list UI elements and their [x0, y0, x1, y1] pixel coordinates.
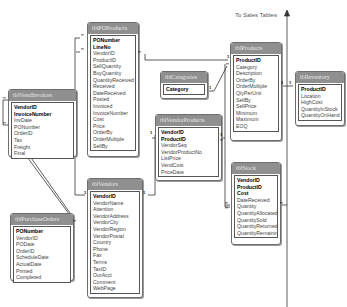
field: ActualDate: [14, 261, 70, 268]
table-tblVendors[interactable]: tblVendors VendorID VendorName Attention…: [87, 178, 143, 298]
cardinality-many: ∞: [225, 206, 228, 210]
field: Final: [12, 150, 73, 157]
field: Received: [91, 83, 135, 90]
table-title: tblVendors: [88, 179, 142, 190]
field: Category: [234, 64, 278, 71]
field: VendorPostal: [91, 233, 139, 240]
table-title: tblPOProducts: [88, 23, 138, 34]
field: Printed: [14, 268, 70, 275]
field-pk: Cost: [235, 190, 277, 197]
table-tblInventory[interactable]: tblInventory ProductID Location HighCost…: [295, 71, 345, 126]
field: VendorName: [91, 200, 139, 207]
field: VendorID: [91, 50, 135, 57]
field: SellBy: [91, 143, 135, 150]
field: VendorID: [14, 235, 70, 242]
field-pk: ProductID: [234, 57, 278, 64]
table-tblPurchaseOrders[interactable]: tblPurchaseOrders PONumber VendorID PODa…: [10, 213, 74, 281]
field: SellBy: [234, 97, 278, 104]
field-pk: LineNo: [91, 44, 135, 51]
field: Invoiced: [91, 103, 135, 110]
field: VendCost: [159, 162, 218, 169]
field: Country: [91, 239, 139, 246]
field: BuyQuantity: [91, 70, 135, 77]
table-tblProducts[interactable]: tblProducts ProductID Category Descripti…: [230, 42, 282, 141]
field: DateReceived: [91, 90, 135, 97]
cardinality-many: ∞: [81, 33, 84, 37]
cardinality-many: ∞: [73, 219, 76, 223]
cardinality-one: 1: [289, 81, 291, 85]
field: Fax: [91, 252, 139, 259]
cardinality-one: 1: [84, 191, 86, 195]
table-title: tblVendorProducts: [156, 115, 221, 126]
table-title: tblProducts: [231, 43, 281, 54]
field-list: PONumber VendorID PODate OrderID Schedul…: [13, 226, 71, 283]
field: InvDate: [12, 117, 73, 124]
field-list: PONumber LineNo VendorID ProductID SellQ…: [90, 35, 136, 151]
field: OrderID: [12, 130, 73, 137]
field: PONumber: [12, 124, 73, 131]
cardinality-one: 1: [227, 55, 229, 59]
field-pk: VendorID: [159, 129, 218, 136]
cardinality-many: ∞: [3, 96, 6, 100]
field: Posted: [91, 96, 135, 103]
cardinality-many: ∞: [280, 201, 283, 205]
field: QuantityReturned: [235, 223, 277, 230]
field: OrderMultiple: [91, 136, 135, 143]
table-title: tblStock: [232, 163, 280, 174]
field: HighCost: [299, 99, 341, 106]
table-title: tblPurchaseOrders: [11, 214, 73, 225]
field: Maximum: [234, 116, 278, 123]
field: QuantityAllocated: [235, 210, 277, 217]
field-list: Category: [163, 84, 205, 95]
field: QuantityOnHand: [299, 112, 341, 119]
cardinality-one: 1: [150, 131, 152, 135]
table-title: tblInventory: [296, 72, 344, 83]
field-pk: ProductID: [299, 86, 341, 93]
field: Price: [91, 123, 135, 130]
cardinality-many: ∞: [3, 121, 6, 125]
field: WebPage: [91, 285, 139, 292]
field: QuantityReceived: [91, 77, 135, 84]
field: PriceDate: [159, 169, 218, 176]
field: Location: [299, 93, 341, 100]
table-tblVendInvoices[interactable]: tblVendInvoices VendorID InvoiceNumber I…: [8, 89, 77, 157]
field: Phone: [91, 246, 139, 253]
field: OrderID: [14, 248, 70, 255]
table-tblCategories[interactable]: tblCategories Category: [160, 71, 208, 99]
cardinality-one: 1: [209, 86, 211, 90]
field: Cost: [91, 116, 135, 123]
field-list: VendorID InvoiceNumber InvDate PONumber …: [11, 102, 74, 159]
field: Terms: [91, 259, 139, 266]
field-pk: VendorID: [235, 177, 277, 184]
field: EOQ: [234, 123, 278, 130]
cardinality-many: ∞: [226, 62, 229, 66]
field: OrderBy: [234, 77, 278, 84]
field: Quantity: [235, 203, 277, 210]
field: VendorProductNo: [159, 149, 218, 156]
table-tblStock[interactable]: tblStock VendorID ProductID Cost DateRec…: [231, 162, 281, 245]
table-tblPOProducts[interactable]: tblPOProducts PONumber LineNo VendorID P…: [87, 22, 139, 157]
field: SellQuantity: [91, 63, 135, 70]
field: QtyPerUnit: [234, 90, 278, 97]
field: QuantitySold: [235, 217, 277, 224]
cardinality-one: 1: [143, 191, 145, 195]
cardinality-many: ∞: [220, 138, 223, 142]
field: OrderMultiple: [234, 83, 278, 90]
field: Minimum: [234, 110, 278, 117]
field: DateReceived: [235, 197, 277, 204]
field-pk: Category: [164, 86, 204, 93]
field-list: ProductID Location HighCost QuantityInSt…: [298, 84, 342, 121]
field: OurAcct: [91, 272, 139, 279]
field: QuantityRemaining: [235, 230, 277, 237]
field-pk: PONumber: [91, 37, 135, 44]
field: Comment: [91, 279, 139, 286]
field: OrderBy: [91, 129, 135, 136]
to-sales-tables-label: To Sales Tables: [235, 12, 277, 18]
field: ScheduleDate: [14, 254, 70, 261]
field: Tax: [12, 137, 73, 144]
table-title: tblCategories: [161, 72, 207, 83]
field: SellPrice: [234, 103, 278, 110]
field: TaxID: [91, 266, 139, 273]
field: Completed: [14, 274, 70, 281]
table-tblVendorProducts[interactable]: tblVendorProducts VendorID ProductID Ven…: [155, 114, 222, 181]
